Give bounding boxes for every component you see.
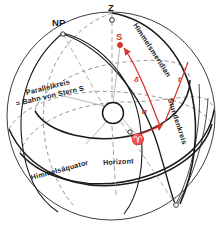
meridian-arc-through-np (21, 33, 142, 214)
radial-construction-lines (64, 46, 138, 144)
label-declination-delta: δ (134, 76, 139, 84)
label-right-ascension-alpha: α (142, 108, 147, 116)
label-zenith: Z (108, 3, 114, 13)
diagram-canvas (0, 0, 222, 228)
label-hour-angle-t: t (178, 76, 181, 84)
south-pole-convergence-arcs (174, 84, 208, 207)
star-point-marker (117, 42, 122, 47)
north-pole-marker (61, 32, 65, 36)
label-star: S (116, 32, 123, 42)
label-north-pole: NP (52, 18, 66, 28)
celestial-sphere-diagram: Z NP S Himmelsmeridian Stundenkreis Para… (0, 0, 222, 228)
label-horizon: Horizont (103, 157, 134, 166)
earth-observer-circle (103, 103, 124, 124)
zenith-marker (110, 18, 115, 23)
label-vernal-equinox-aries: ♈ (131, 134, 145, 145)
